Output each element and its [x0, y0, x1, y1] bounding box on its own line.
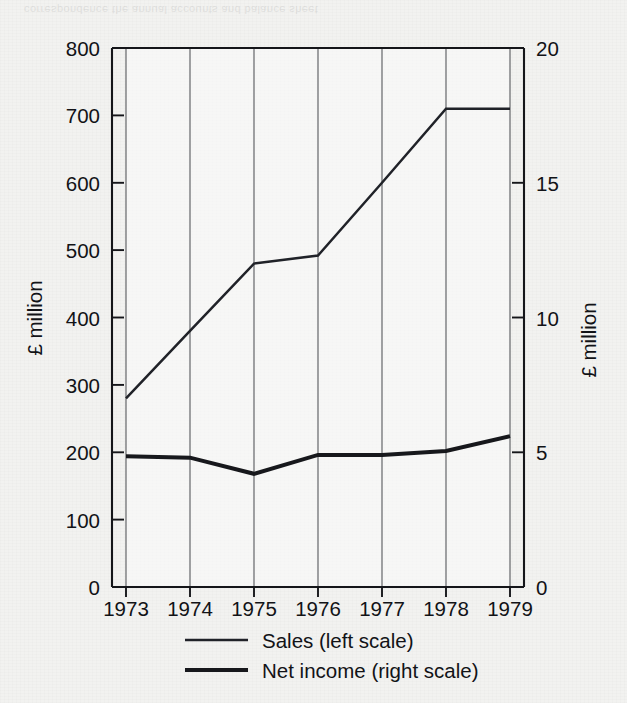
- left-tick-label-100: 100: [66, 509, 100, 532]
- left-axis-tick-labels: 800 700 600 500 400 300 200 100 0: [66, 37, 100, 599]
- x-tick-label-1973: 1973: [103, 597, 149, 620]
- left-tick-label-300: 300: [66, 374, 100, 397]
- left-tick-label-200: 200: [66, 441, 100, 464]
- right-axis-title: £ million: [577, 302, 600, 377]
- x-tick-label-1975: 1975: [231, 597, 277, 620]
- legend-label-net-income: Net income (right scale): [262, 659, 478, 682]
- left-tick-label-400: 400: [66, 307, 100, 330]
- right-tick-label-0: 0: [536, 576, 547, 599]
- right-axis-ticks: [512, 183, 524, 453]
- left-axis-ticks: [112, 48, 124, 520]
- x-tick-label-1976: 1976: [295, 597, 341, 620]
- left-axis-title: £ million: [23, 280, 46, 355]
- x-tick-label-1977: 1977: [359, 597, 405, 620]
- left-tick-label-0: 0: [89, 576, 100, 599]
- left-tick-label-600: 600: [66, 172, 100, 195]
- left-tick-label-500: 500: [66, 239, 100, 262]
- x-tick-label-1978: 1978: [423, 597, 469, 620]
- right-axis-tick-labels: 20 15 10 5 0: [536, 37, 559, 599]
- legend-label-sales: Sales (left scale): [262, 629, 414, 652]
- x-axis-tick-labels: 1973 1974 1975 1976 1977 1978 1979: [103, 597, 533, 620]
- dual-axis-line-chart: 800 700 600 500 400 300 200 100 0 20 15 …: [0, 0, 627, 703]
- x-axis-ticks: [126, 587, 510, 597]
- x-tick-label-1974: 1974: [167, 597, 213, 620]
- right-tick-label-20: 20: [536, 37, 559, 60]
- chart-legend: Sales (left scale) Net income (right sca…: [185, 629, 478, 682]
- right-tick-label-10: 10: [536, 307, 559, 330]
- left-tick-label-800: 800: [66, 37, 100, 60]
- left-tick-label-700: 700: [66, 104, 100, 127]
- right-tick-label-5: 5: [536, 441, 547, 464]
- x-tick-label-1979: 1979: [487, 597, 533, 620]
- right-tick-label-15: 15: [536, 172, 559, 195]
